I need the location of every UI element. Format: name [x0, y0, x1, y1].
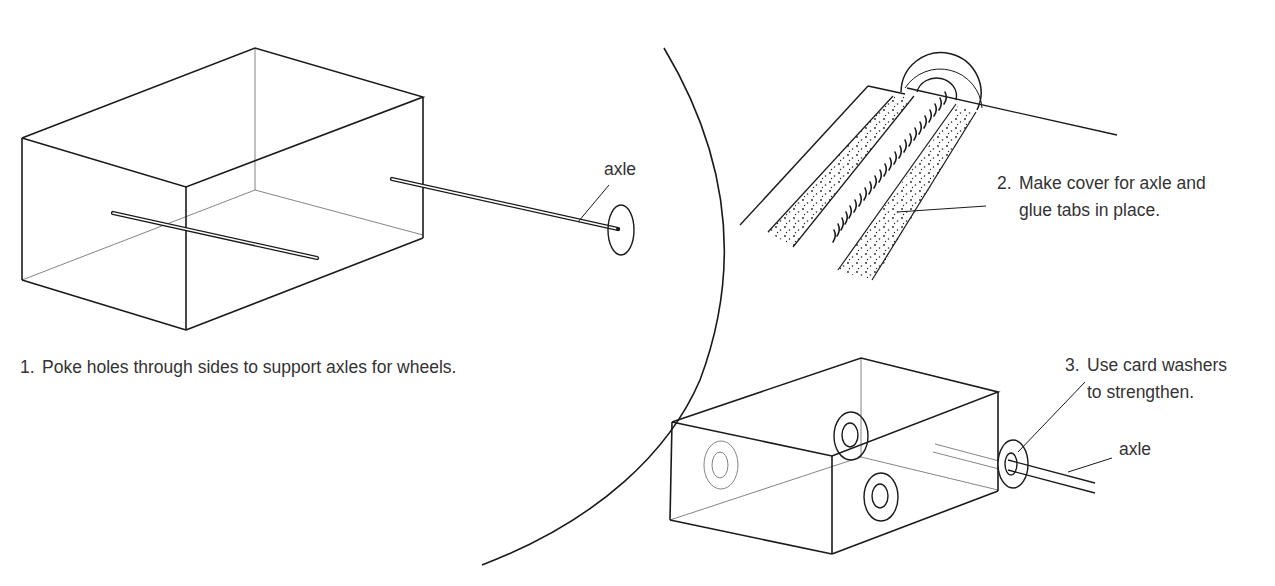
- axle-front: [113, 213, 317, 258]
- step-2-text-line2: glue tabs in place.: [997, 197, 1206, 224]
- step-1-caption: 1.Poke holes through sides to support ax…: [20, 354, 456, 381]
- wheel-icon: [608, 205, 634, 255]
- axle-3-leader: [1068, 458, 1112, 472]
- diagram-canvas: [0, 0, 1275, 586]
- step-3-text-line1: Use card washers: [1087, 355, 1227, 375]
- step-2-caption: 2.Make cover for axle and glue tabs in p…: [997, 170, 1206, 224]
- step-1-text: Poke holes through sides to support axle…: [42, 357, 456, 377]
- axle-label-text: axle: [604, 159, 636, 179]
- box-1-drawing: [22, 48, 634, 330]
- step-1-number: 1.: [20, 354, 42, 381]
- step-2-number: 2.: [997, 170, 1019, 197]
- step-3-text-line2: to strengthen.: [1065, 379, 1227, 406]
- step-2-text-line1: Make cover for axle and: [1019, 173, 1206, 193]
- axle-rear: [392, 179, 618, 229]
- box-3-drawing: [670, 358, 1112, 554]
- axle-cover-drawing: [740, 53, 1117, 282]
- axle-label-3-text: axle: [1119, 439, 1151, 459]
- washer-hidden-left: [704, 441, 738, 489]
- washer-front: [864, 473, 898, 521]
- axle-label-3: axle: [1119, 436, 1151, 463]
- axle-label-leader: [578, 185, 609, 222]
- step-3-number: 3.: [1065, 352, 1087, 379]
- washer-top: [834, 412, 868, 460]
- axle-label-1: axle: [604, 156, 636, 183]
- panel-divider-arc: [482, 48, 724, 565]
- step-3-caption: 3.Use card washers to strengthen.: [1065, 352, 1227, 406]
